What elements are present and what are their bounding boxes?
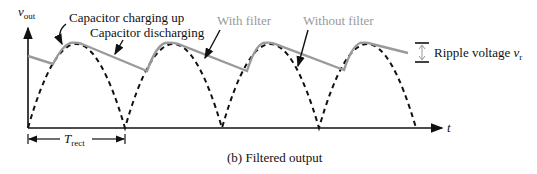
y-axis-label: vout [18,4,36,21]
without-filter-arrow [298,30,308,66]
period-label: Trect [64,131,85,148]
ripple-label: Ripple voltage vr [434,45,522,62]
discharging-arrow [115,40,123,54]
unfiltered-waveform [28,44,416,128]
without-filter-label: Without filter [303,13,374,28]
charging-label: Capacitor charging up [69,10,184,25]
filtered-output-diagram: vout t Capacitor charging up Capacitor d… [0,0,537,174]
ripple-indicator [415,43,429,62]
charging-arrow [60,24,66,44]
discharging-label: Capacitor discharging [90,25,205,40]
with-filter-label: With filter [217,13,272,28]
x-axis-label: t [447,120,451,135]
with-filter-arrow [205,30,220,58]
caption: (b) Filtered output [227,150,323,165]
